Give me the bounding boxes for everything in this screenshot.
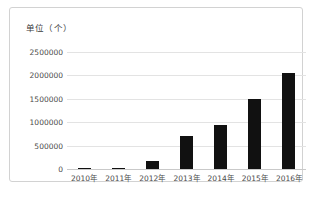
y-tick-500000: 500000: [34, 141, 63, 150]
x-axis-tick-labels: 2010年2011年2012年2013年2014年2015年2016年: [67, 172, 306, 188]
x-tick-2011年: 2011年: [105, 172, 131, 183]
y-axis-tick-labels: 05000001000000150000020000002500000: [10, 8, 63, 197]
bar-2010年: [78, 168, 91, 170]
bar-2012年: [146, 161, 159, 169]
x-tick-2015年: 2015年: [242, 172, 268, 183]
gridline-0: [67, 169, 306, 170]
y-tick-1500000: 1500000: [30, 94, 63, 103]
x-tick-2013年: 2013年: [173, 172, 199, 183]
chart-frame: 单位（个） 0500000100000015000002000000250000…: [9, 7, 303, 182]
y-tick-1000000: 1000000: [30, 118, 63, 127]
bar-series: [67, 52, 306, 169]
bar-2014年: [214, 125, 227, 169]
bar-2015年: [248, 99, 261, 169]
x-tick-2010年: 2010年: [71, 172, 97, 183]
y-tick-2000000: 2000000: [30, 71, 63, 80]
x-tick-2014年: 2014年: [208, 172, 234, 183]
bar-2013年: [180, 136, 193, 169]
y-tick-0: 0: [58, 165, 63, 174]
bar-2016年: [282, 73, 295, 169]
x-tick-2012年: 2012年: [139, 172, 165, 183]
bar-2011年: [112, 168, 125, 170]
x-tick-2016年: 2016年: [276, 172, 302, 183]
y-tick-2500000: 2500000: [30, 48, 63, 57]
